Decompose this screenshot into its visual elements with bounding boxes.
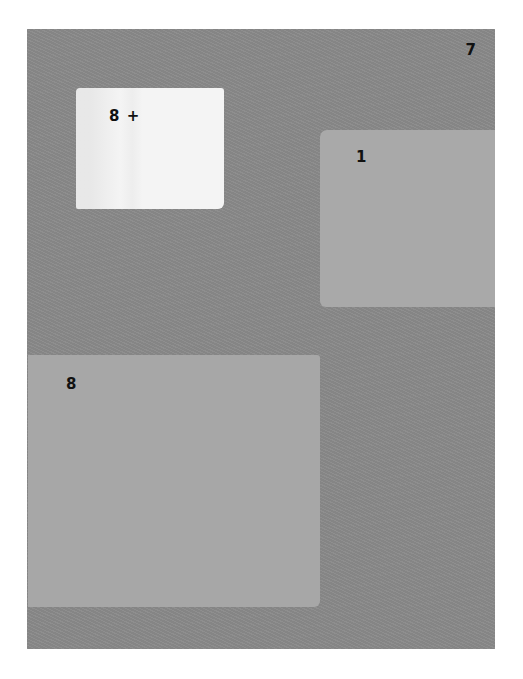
patch-label: 8 + xyxy=(109,107,140,125)
panel-label: 7 xyxy=(466,41,477,59)
gray-background-panel: 7 8 + 1 8 xyxy=(27,29,495,649)
light-gray-patch-right: 1 xyxy=(320,130,495,307)
patch-label: 8 xyxy=(66,375,77,393)
light-gray-patch-bottom: 8 xyxy=(28,355,320,607)
white-patch: 8 + xyxy=(76,88,224,209)
patch-label: 1 xyxy=(356,148,367,166)
